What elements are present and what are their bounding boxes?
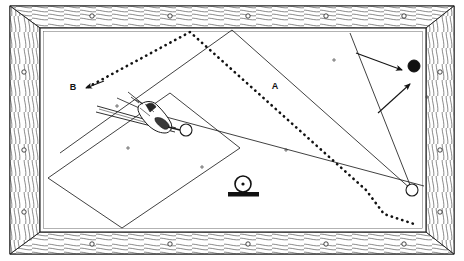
rail-stud <box>90 242 94 246</box>
rail-stud <box>438 148 442 152</box>
rail-top <box>10 6 454 28</box>
rail-stud <box>324 242 328 246</box>
rail-right <box>426 6 454 254</box>
rail-stud <box>438 70 442 74</box>
object-ball-black <box>408 60 420 72</box>
rail-stud <box>22 70 26 74</box>
rail-stud <box>22 210 26 214</box>
table-frame <box>10 6 454 254</box>
rail-stud <box>168 14 172 18</box>
target-ball-white <box>406 184 418 196</box>
diagram-canvas: A B <box>0 0 464 261</box>
table-bed <box>40 28 426 232</box>
rail-stud <box>402 242 406 246</box>
rail-stud <box>402 14 406 18</box>
label-a: A <box>272 81 279 91</box>
rail-stud <box>22 148 26 152</box>
rail-stud <box>168 242 172 246</box>
rail-stud <box>324 14 328 18</box>
rail-bottom <box>10 232 454 254</box>
label-b: B <box>70 82 77 92</box>
rail-stud <box>438 210 442 214</box>
rest-icon-base <box>228 192 259 197</box>
cue-ball-white <box>180 124 192 136</box>
billiards-diagram-figure: A B <box>0 0 464 261</box>
rest-icon-center-dot <box>241 182 244 185</box>
rail-stud <box>246 242 250 246</box>
rail-left <box>10 6 40 254</box>
rail-stud <box>90 14 94 18</box>
rail-stud <box>246 14 250 18</box>
